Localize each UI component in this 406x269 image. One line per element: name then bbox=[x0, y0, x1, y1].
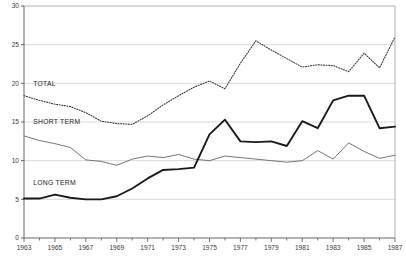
y-tick-label-25: 25 bbox=[12, 41, 20, 48]
x-tick-label-1965: 1965 bbox=[48, 244, 63, 250]
x-tick-label-1979: 1979 bbox=[264, 244, 279, 250]
figure-caption bbox=[0, 256, 406, 269]
series-annotation-long-term: LONG TERM bbox=[33, 179, 76, 186]
x-tick-label-1985: 1985 bbox=[357, 244, 372, 250]
y-tick-label-5: 5 bbox=[15, 196, 19, 203]
series-annotation-short-term: SHORT TERM bbox=[33, 118, 80, 125]
x-tick-label-1975: 1975 bbox=[202, 244, 217, 250]
series-line-long-term bbox=[24, 96, 395, 200]
chart-plot-area: 051015202530 196319651967196919711973197… bbox=[0, 0, 406, 250]
x-tick-label-1971: 1971 bbox=[140, 244, 155, 250]
x-tick-label-1977: 1977 bbox=[233, 244, 248, 250]
y-tick-label-group: 051015202530 bbox=[12, 2, 20, 241]
x-tick-label-1963: 1963 bbox=[17, 244, 32, 250]
x-tick-label-1983: 1983 bbox=[326, 244, 341, 250]
x-tick-label-1981: 1981 bbox=[295, 244, 310, 250]
x-tick-label-1973: 1973 bbox=[171, 244, 186, 250]
y-tick-label-15: 15 bbox=[12, 118, 20, 125]
series-annotation-total: TOTAL bbox=[33, 80, 56, 87]
x-tick-label-1967: 1967 bbox=[78, 244, 93, 250]
x-tick-label-1987: 1987 bbox=[388, 244, 403, 250]
line-chart: 051015202530 196319651967196919711973197… bbox=[0, 0, 406, 250]
x-tick-label-1969: 1969 bbox=[109, 244, 124, 250]
x-tick-group bbox=[24, 238, 395, 242]
x-tick-label-group: 1963196519671969197119731975197719791981… bbox=[17, 244, 403, 250]
y-tick-label-30: 30 bbox=[12, 2, 20, 9]
y-tick-label-20: 20 bbox=[12, 80, 20, 87]
series-line-total bbox=[24, 37, 395, 124]
y-tick-label-10: 10 bbox=[12, 157, 20, 164]
figure-container: 051015202530 196319651967196919711973197… bbox=[0, 0, 406, 269]
series-annotation-group: TOTALSHORT TERMLONG TERM bbox=[33, 80, 80, 186]
y-tick-label-0: 0 bbox=[15, 234, 19, 241]
